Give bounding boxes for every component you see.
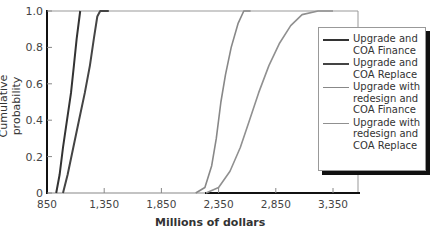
y-tick-label: 0.6	[26, 78, 44, 91]
x-axis-ticks: 8501,3501,8502,3502,8503,350	[37, 188, 348, 210]
y-axis-title: Cumulative probability	[0, 46, 23, 166]
y-tick-label: 0.2	[26, 151, 44, 164]
legend-item: Upgrade with redesign and COA Replace	[323, 117, 423, 152]
x-tick-label: 1,850	[146, 198, 176, 210]
legend-line-icon	[323, 87, 349, 88]
legend-label: Upgrade and COA Replace	[353, 57, 418, 80]
legend-item: Upgrade with redesign and COA Finance	[323, 81, 423, 116]
legend-item: Upgrade and COA Replace	[323, 57, 423, 80]
x-tick-label: 1,350	[89, 198, 119, 210]
legend-label: Upgrade and COA Finance	[353, 33, 418, 56]
x-tick-label: 2,850	[261, 198, 291, 210]
data-series	[56, 11, 333, 193]
series-line	[196, 11, 251, 193]
legend-line-icon	[323, 39, 349, 41]
legend-item: Upgrade and COA Finance	[323, 33, 423, 56]
x-axis-title: Millions of dollars	[155, 216, 265, 229]
y-tick-label: 0.8	[26, 41, 44, 54]
x-tick-label: 3,350	[318, 198, 348, 210]
legend-line-icon	[323, 63, 349, 65]
x-tick-label: 850	[37, 198, 57, 210]
series-line	[56, 11, 80, 193]
y-tick-label: 0.4	[26, 114, 44, 127]
series-line	[206, 11, 333, 193]
x-tick-label: 2,350	[204, 198, 234, 210]
legend-line-icon	[323, 123, 349, 124]
legend-label: Upgrade with redesign and COA Replace	[353, 117, 420, 152]
legend: Upgrade and COA Finance Upgrade and COA …	[318, 27, 426, 171]
legend-label: Upgrade with redesign and COA Finance	[353, 81, 420, 116]
y-tick-label: 1.0	[26, 5, 44, 18]
y-axis-ticks: 00.20.40.60.81.0	[26, 5, 53, 200]
